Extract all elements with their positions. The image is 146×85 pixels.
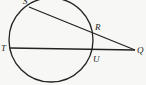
label-r: R bbox=[94, 22, 101, 32]
geometry-diagram: S R T U Q bbox=[0, 0, 146, 85]
circle bbox=[9, 0, 93, 82]
secant-s-q bbox=[29, 7, 135, 50]
label-t: T bbox=[1, 43, 7, 53]
label-q: Q bbox=[137, 45, 144, 55]
label-s: S bbox=[23, 0, 28, 6]
secant-t-q bbox=[10, 48, 135, 50]
label-u: U bbox=[93, 54, 100, 64]
